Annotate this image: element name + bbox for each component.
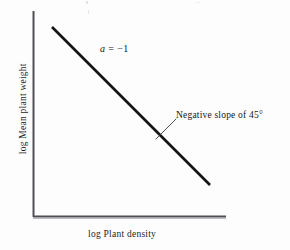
y-axis-label: log Mean plant weight: [19, 39, 29, 179]
figure-container: log Mean plant weight log Plant density …: [0, 0, 290, 250]
slope-description-annotation: Negative slope of 45°: [176, 111, 263, 121]
x-axis-label: log Plant density: [88, 230, 218, 240]
slope-parameter-annotation: a = −1: [100, 44, 129, 54]
plot-canvas: [0, 0, 290, 250]
scan-artifact-speck: [86, 1, 88, 4]
scan-artifact-speck: [196, 2, 200, 3]
slope-parameter-value: −1: [117, 43, 128, 54]
self-thinning-trend-line: [52, 27, 210, 185]
annotation-leader-line: [156, 119, 176, 139]
